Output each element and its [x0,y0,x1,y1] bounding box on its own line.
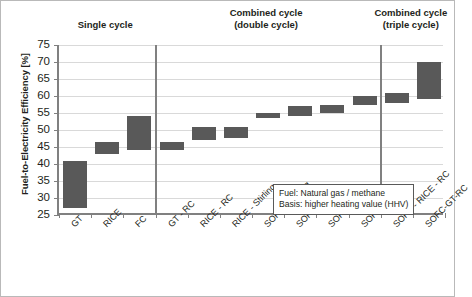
y-axis-tick-label: 35 [24,175,50,187]
section-title-single: Single cycle [35,19,175,31]
section-title-triple: Combined cycle(triple cycle) [341,7,472,31]
bar-sofc-gt-rc [417,62,441,99]
bar-sofc-rc [353,96,377,105]
y-axis-tick [54,79,59,80]
y-axis-tick [54,113,59,114]
y-axis-tick-label: 50 [24,124,50,136]
bar-sofc-rice-rc [385,93,409,103]
y-axis-tick-label: 75 [24,39,50,51]
section-title-line-2: (double cycle) [196,19,336,31]
gridline [59,130,443,131]
x-axis-tick [59,213,60,218]
y-axis-tick [54,181,59,182]
section-title-double: Combined cycle(double cycle) [196,7,336,31]
section-title-line-2: (triple cycle) [341,19,472,31]
y-axis-tick [54,130,59,131]
x-axis-tick [156,213,157,218]
annotation-box: Fuel: Natural gas / methane Basis: highe… [273,184,414,215]
y-axis-tick-label: 25 [24,209,50,221]
bar-gt [63,161,87,209]
bar-rice-stirling [224,127,248,139]
x-axis-tick [123,213,124,218]
x-axis-tick-label: FC [133,214,149,230]
y-axis-tick-label: 70 [24,56,50,68]
section-divider [155,45,157,213]
bar-sofc-rice [320,105,344,114]
section-title-line-1: Combined cycle [196,7,336,19]
gridline [59,164,443,165]
gridline [59,181,443,182]
section-title-line-1: Combined cycle [341,7,472,19]
x-axis-tick [188,213,189,218]
y-axis-tick-label: 65 [24,73,50,85]
y-axis-tick [54,62,59,63]
gridline [59,45,443,46]
gridline [59,113,443,114]
gridline [59,79,443,80]
x-axis-tick [252,213,253,218]
bar-fc [127,116,151,150]
y-axis-tick-label: 30 [24,192,50,204]
annotation-line-1: Fuel: Natural gas / methane [279,188,408,199]
x-axis-tick [91,213,92,218]
bar-rice-rc [192,127,216,141]
y-axis-tick [54,45,59,46]
y-axis-tick [54,96,59,97]
bar-sofc-stirling [256,113,280,118]
y-axis-tick [54,147,59,148]
bar-rice [95,142,119,154]
bar-sofc-gt [288,106,312,116]
x-axis-tick [445,213,446,218]
bar-gt-rc [160,142,184,151]
y-axis-tick [54,198,59,199]
section-title-line-1: Single cycle [35,19,175,31]
y-axis-tick-label: 45 [24,141,50,153]
y-axis-tick [54,164,59,165]
x-axis-tick-label: GT [69,213,85,229]
gridline [59,62,443,63]
x-axis-tick [220,213,221,218]
y-axis-tick-label: 55 [24,107,50,119]
y-axis-tick-label: 40 [24,158,50,170]
annotation-line-2: Basis: higher heating value (HHV) [279,199,408,210]
y-axis-tick-label: 60 [24,90,50,102]
